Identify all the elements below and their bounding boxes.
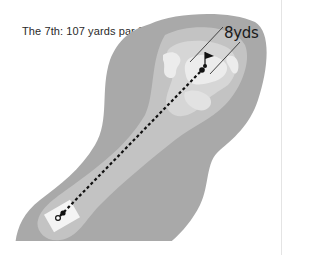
pin-dot-icon — [199, 67, 205, 73]
tee-marker-icon — [56, 216, 61, 221]
distance-label: 8yds — [224, 24, 259, 42]
ball-marker — [60, 210, 65, 215]
right-edge-divider — [281, 0, 282, 255]
